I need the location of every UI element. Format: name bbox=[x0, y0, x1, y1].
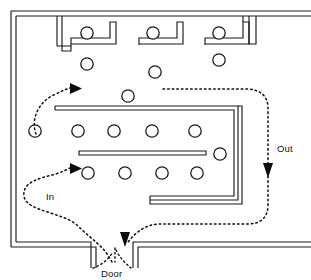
round-table bbox=[149, 66, 161, 78]
wall-bottom-left-inner bbox=[16, 242, 91, 268]
floorplan-diagram: In Out Door bbox=[0, 0, 311, 280]
partition-upper-inner bbox=[55, 110, 234, 196]
alcove-return-right-2 bbox=[249, 16, 256, 44]
round-table bbox=[189, 125, 201, 137]
round-table bbox=[72, 125, 84, 137]
arrow-right-icon-in-upper bbox=[70, 83, 82, 94]
arrow-right-icon-in bbox=[70, 163, 82, 174]
center-divider-bar bbox=[79, 151, 206, 155]
round-table bbox=[122, 90, 134, 102]
label-door: Door bbox=[101, 268, 122, 279]
round-table bbox=[147, 27, 159, 39]
round-table bbox=[213, 27, 225, 39]
flow-in-lower bbox=[24, 168, 112, 262]
round-table bbox=[214, 148, 226, 160]
round-table bbox=[82, 167, 94, 179]
booth-shape-middle bbox=[139, 22, 183, 45]
arrow-down-icon-out bbox=[263, 163, 273, 178]
door-swing-group bbox=[93, 248, 131, 268]
round-table bbox=[108, 125, 120, 137]
wall-bottom-left-outer bbox=[11, 247, 96, 268]
outer-wall-group bbox=[11, 11, 311, 268]
door-swing-right bbox=[116, 250, 131, 268]
wall-bottom-right-inner bbox=[133, 242, 311, 268]
wall-bottom-right-outer bbox=[138, 247, 311, 268]
round-table bbox=[29, 125, 41, 137]
booth-shape-right bbox=[205, 22, 249, 45]
tables-layer bbox=[29, 27, 226, 179]
floorplan-canvas: In Out Door bbox=[0, 0, 311, 280]
center-divider-group bbox=[79, 151, 206, 155]
round-table bbox=[191, 167, 203, 179]
round-table bbox=[81, 27, 93, 39]
round-table bbox=[81, 58, 93, 70]
label-out: Out bbox=[277, 143, 293, 154]
round-table bbox=[213, 54, 225, 66]
round-table bbox=[119, 167, 131, 179]
arrow-down-icon-door bbox=[120, 232, 130, 247]
alcove-divider-left bbox=[57, 16, 62, 46]
partition-upper-outer bbox=[55, 106, 238, 200]
round-table bbox=[146, 125, 158, 137]
round-table bbox=[156, 167, 168, 179]
flow-out-main bbox=[128, 89, 268, 242]
label-in: In bbox=[46, 191, 54, 202]
